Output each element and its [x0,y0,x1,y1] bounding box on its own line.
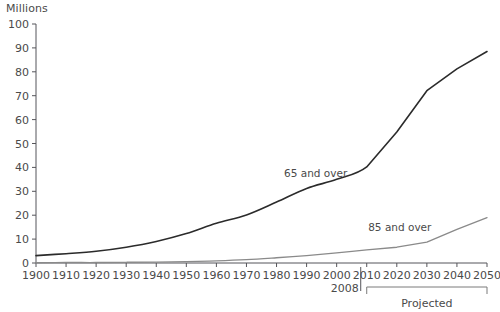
chart-container: Millions 0102030405060708090100 19001910… [0,0,500,312]
y-tick-label: 10 [15,233,29,246]
x-tick-label: 1950 [172,269,200,282]
x-tick-label: 2030 [413,269,441,282]
x-tick-label: 1930 [112,269,140,282]
x-tick-label: 1910 [52,269,80,282]
x-tick-label: 2010 [353,269,381,282]
x-tick-label: 2050 [473,269,500,282]
y-tick-label: 100 [8,18,29,31]
x-tick-label: 1940 [142,269,170,282]
y-tick-label: 90 [15,42,29,55]
y-tick-label: 70 [15,90,29,103]
x-tick-label: 1970 [232,269,260,282]
y-tick-label: 50 [15,138,29,151]
x-tick-label: 1980 [263,269,291,282]
x-tick-label: 1960 [202,269,230,282]
projected-bracket [367,287,487,294]
year-marker-label-2008: 2008 [331,282,359,295]
x-tick-label: 2020 [383,269,411,282]
y-tick-label: 30 [15,185,29,198]
y-tick-label: 40 [15,161,29,174]
x-tick-label: 1900 [22,269,50,282]
x-tick-label: 2000 [323,269,351,282]
x-tick-label: 1990 [293,269,321,282]
chart-plot-area: 0102030405060708090100 19001910192019301… [0,0,500,312]
series-label-85-and-over: 85 and over [368,221,432,233]
x-tick-label: 2040 [443,269,471,282]
x-axis-ticks: 1900191019201930194019501960197019801990… [22,263,500,282]
y-tick-label: 20 [15,209,29,222]
y-axis-ticks: 0102030405060708090100 [8,18,36,270]
series-label-65-and-over: 65 and over [284,167,348,179]
y-tick-label: 60 [15,114,29,127]
x-tick-label: 1920 [82,269,110,282]
y-tick-label: 80 [15,66,29,79]
projected-label: Projected [401,297,452,310]
